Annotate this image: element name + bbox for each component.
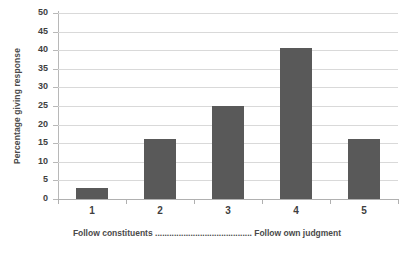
x-tick-label: 4 [266, 205, 326, 217]
y-tick-label: 20 [8, 120, 48, 129]
y-tick-label: 40 [8, 45, 48, 54]
bar [280, 48, 312, 199]
y-tick-label: 0 [8, 194, 48, 203]
x-tick-mark [126, 199, 127, 204]
x-tick-mark [262, 199, 263, 204]
x-tick-label: 5 [334, 205, 394, 217]
y-tick-label: 10 [8, 157, 48, 166]
plot-area [58, 13, 398, 199]
x-tick-mark [330, 199, 331, 204]
y-tick-label: 45 [8, 27, 48, 36]
x-tick-mark [194, 199, 195, 204]
y-tick-label: 15 [8, 138, 48, 147]
gridline [58, 13, 398, 14]
bar-chart-figure: Percentage giving response 0510152025303… [0, 0, 414, 254]
y-tick-label: 50 [8, 8, 48, 17]
gridline [58, 69, 398, 70]
bar [144, 139, 176, 199]
x-tick-label: 1 [62, 205, 122, 217]
x-tick-mark [398, 199, 399, 204]
x-tick-label: 2 [130, 205, 190, 217]
x-axis-line [53, 199, 398, 200]
bar [348, 139, 380, 199]
x-axis-caption: Follow constituents ....................… [0, 228, 414, 238]
bar [212, 106, 244, 199]
bar [76, 188, 108, 199]
gridline [58, 32, 398, 33]
y-tick-label: 30 [8, 82, 48, 91]
gridline [58, 87, 398, 88]
y-tick-label: 5 [8, 175, 48, 184]
x-tick-label: 3 [198, 205, 258, 217]
gridline [58, 50, 398, 51]
y-tick-label: 35 [8, 64, 48, 73]
y-tick-label: 25 [8, 101, 48, 110]
x-tick-mark [58, 199, 59, 204]
